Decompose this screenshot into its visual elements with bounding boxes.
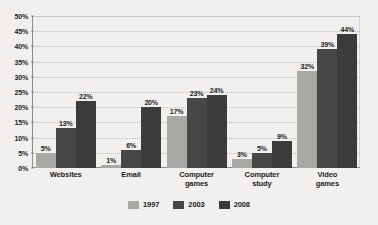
bar-group: 32%39%44% [295,16,360,168]
bar-slot: 20% [141,16,161,168]
bar[interactable] [207,95,227,168]
bar[interactable] [272,141,292,168]
bar-slot: 13% [56,16,76,168]
bar-value-label: 9% [277,133,287,140]
x-axis-category-label: Email [98,170,163,188]
bar-group: 17%23%24% [164,16,229,168]
bar-value-label: 20% [144,99,157,106]
bar-slot: 3% [232,16,252,168]
x-axis-category-label: Computergames [164,170,229,188]
y-axis-tick-label: 40% [15,43,28,50]
legend-item[interactable]: 1997 [128,200,159,209]
bar-value-label: 1% [106,157,116,164]
y-axis-tick-label: 45% [15,28,28,35]
bar-slot: 5% [252,16,272,168]
bar-slot: 24% [207,16,227,168]
bar[interactable] [36,153,56,168]
bar-value-label: 22% [79,93,92,100]
bar[interactable] [317,49,337,168]
chart-legend: 199720032008 [0,200,378,209]
legend-label: 2008 [234,200,250,209]
bar-value-label: 24% [210,87,223,94]
bar-group: 1%6%20% [98,16,163,168]
legend-swatch [173,201,184,209]
bar-value-label: 5% [257,145,267,152]
bar-value-label: 3% [237,151,247,158]
legend-swatch [128,201,139,209]
x-axis-labels: WebsitesEmailComputergamesComputerstudyV… [33,170,360,188]
bar-chart: 0%5%10%15%20%25%30%35%40%45%50% 5%13%22%… [0,0,378,225]
bar-slot: 32% [297,16,317,168]
bar-slot: 6% [121,16,141,168]
bar-slot: 5% [36,16,56,168]
bar-slot: 44% [337,16,357,168]
y-axis-tick-label: 5% [18,149,28,156]
bar[interactable] [101,165,121,168]
x-axis-category-label: Computerstudy [229,170,294,188]
x-axis-category-label: Websites [33,170,98,188]
bar-value-label: 32% [301,63,314,70]
legend-label: 1997 [143,200,159,209]
bar-value-label: 39% [321,41,334,48]
legend-item[interactable]: 2008 [219,200,250,209]
bar-value-label: 23% [190,90,203,97]
bar-slot: 22% [76,16,96,168]
y-axis-tick-label: 50% [15,13,28,20]
bar[interactable] [167,116,187,168]
bar-slot: 23% [187,16,207,168]
legend-swatch [219,201,230,209]
y-axis-tick-label: 35% [15,58,28,65]
bar-value-label: 6% [126,142,136,149]
bar[interactable] [232,159,252,168]
y-axis-tick-label: 25% [15,89,28,96]
bar-value-label: 44% [341,26,354,33]
bar-group: 3%5%9% [229,16,294,168]
legend-label: 2003 [188,200,204,209]
bar[interactable] [297,71,317,168]
y-axis: 0%5%10%15%20%25%30%35%40%45%50% [0,0,32,168]
bar[interactable] [121,150,141,168]
bar-value-label: 5% [41,145,51,152]
bar[interactable] [252,153,272,168]
bar[interactable] [337,34,357,168]
y-axis-tick-label: 0% [18,165,28,172]
bar-slot: 39% [317,16,337,168]
bar[interactable] [76,101,96,168]
bar[interactable] [187,98,207,168]
legend-item[interactable]: 2003 [173,200,204,209]
x-axis-category-label: Videogames [295,170,360,188]
y-axis-tick-label: 10% [15,134,28,141]
bar[interactable] [56,128,76,168]
bar[interactable] [141,107,161,168]
bar-slot: 17% [167,16,187,168]
bar-value-label: 17% [170,108,183,115]
y-axis-tick-label: 15% [15,119,28,126]
bar-group: 5%13%22% [33,16,98,168]
bar-slot: 9% [272,16,292,168]
y-axis-tick-label: 30% [15,73,28,80]
bar-value-label: 13% [59,120,72,127]
y-axis-tick-label: 20% [15,104,28,111]
bar-groups: 5%13%22%1%6%20%17%23%24%3%5%9%32%39%44% [33,16,360,168]
bar-slot: 1% [101,16,121,168]
